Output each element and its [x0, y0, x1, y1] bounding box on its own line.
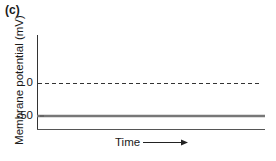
chart-plot: [0, 0, 276, 161]
time-arrow-icon: [143, 140, 188, 146]
